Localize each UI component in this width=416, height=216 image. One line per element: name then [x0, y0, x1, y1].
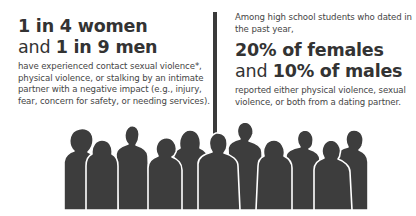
right-headline-females: 20% of females [235, 40, 384, 60]
right-stat-panel: Among high school students who dated in … [235, 12, 415, 108]
left-stat-panel: 1 in 4 women and 1 in 9 men have experie… [18, 16, 210, 107]
right-headline-line1: 20% of females [235, 40, 415, 61]
left-headline-women: 1 in 4 women [18, 16, 147, 36]
left-headline-men: 1 in 9 men [56, 37, 158, 57]
left-description: have experienced contact sexual violence… [18, 61, 210, 107]
right-headline-males: 10% of males [273, 61, 403, 81]
left-headline-and: and [18, 37, 56, 57]
right-intro: Among high school students who dated in … [235, 12, 415, 35]
crowd-silhouette-icon [60, 122, 370, 210]
vertical-divider [213, 12, 217, 136]
left-headline-line2: and 1 in 9 men [18, 37, 210, 58]
right-headline-line2: and 10% of males [235, 61, 415, 82]
right-description: reported either physical violence, sexua… [235, 85, 415, 108]
left-headline-line1: 1 in 4 women [18, 16, 210, 37]
right-headline-and: and [235, 61, 273, 81]
